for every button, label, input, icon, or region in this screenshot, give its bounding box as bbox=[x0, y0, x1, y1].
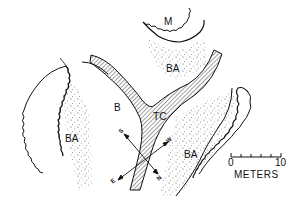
label-ba-top: BA bbox=[166, 64, 180, 74]
scale-start: 0 bbox=[228, 158, 234, 168]
scale-bar bbox=[231, 153, 281, 157]
site-map bbox=[0, 0, 304, 214]
label-b: B bbox=[114, 103, 121, 113]
ridge-left-outer bbox=[23, 58, 70, 173]
label-tc: TC bbox=[153, 112, 167, 122]
mound-m bbox=[143, 8, 204, 42]
label-m: M bbox=[164, 17, 173, 27]
scale-end: 10 bbox=[275, 158, 286, 168]
label-ba-left: BA bbox=[65, 134, 79, 144]
label-ba-right: BA bbox=[184, 150, 198, 160]
scale-units: METERS bbox=[234, 170, 279, 180]
